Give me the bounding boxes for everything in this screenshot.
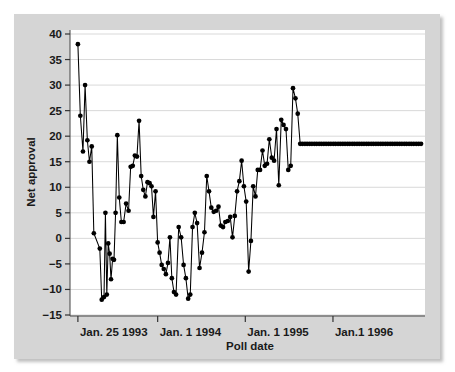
data-point [230,235,235,240]
data-point [81,149,86,154]
data-point [149,184,154,189]
data-point [202,230,207,235]
y-tick-label: 30 [49,79,62,91]
data-point [137,119,142,124]
data-point [181,263,186,268]
data-point [195,221,200,226]
data-point [76,42,81,47]
net-approval-line-chart: −15−10−50510152025303540 Jan. 25 1993Jan… [0,0,455,372]
data-point [274,127,279,132]
data-point [267,137,272,142]
y-axis-ticks: −15−10−50510152025303540 [42,28,70,321]
data-point [258,168,263,173]
data-point [176,225,181,230]
y-tick-label: −15 [42,309,62,321]
data-point [103,210,108,215]
y-tick-label: 40 [49,28,62,40]
x-tick-label: Jan. 25 1993 [80,326,148,338]
data-point [124,201,129,206]
data-point [91,231,96,236]
data-point [221,225,226,230]
data-point [85,138,90,143]
data-point [115,133,120,138]
data-point [197,266,202,271]
data-point [78,113,83,118]
data-point [157,250,162,255]
data-point [164,272,169,277]
data-point [155,240,160,245]
data-point [107,251,112,256]
data-point [200,250,205,255]
data-point [117,195,122,200]
x-axis-title: Poll date [226,340,274,352]
data-point [87,159,92,164]
data-point [251,184,256,189]
data-point [184,276,189,281]
data-point [112,257,117,262]
data-point [237,179,242,184]
y-axis-title: Net approval [25,137,37,207]
data-point [143,194,148,199]
data-point [253,194,258,199]
x-axis-ticks: Jan. 25 1993Jan. 1 1994Jan. 1 1995Jan.1 … [78,316,393,338]
y-tick-label: −5 [49,258,63,270]
data-point [179,235,184,240]
data-point [170,276,175,281]
data-point [190,225,195,230]
data-point [151,215,156,220]
y-tick-label: 25 [49,105,62,117]
data-point [204,174,209,179]
data-point [166,261,171,266]
data-point [244,199,249,204]
data-point [246,269,251,274]
x-tick-label: Jan. 1 1994 [160,326,222,338]
data-point [161,267,166,272]
data-point [232,214,237,219]
data-point [281,123,286,128]
data-point [153,189,158,194]
data-point [419,142,424,147]
data-point [126,208,131,213]
data-point [192,210,197,215]
data-point [214,208,219,213]
data-point [97,246,102,251]
data-point [104,292,109,297]
data-point [272,158,277,163]
data-point [139,174,144,179]
data-point [113,210,118,215]
data-point [83,83,88,88]
data-point [276,183,281,188]
data-point [265,161,270,166]
data-point [216,204,221,209]
data-point [228,215,233,220]
y-tick-label: 35 [49,54,62,66]
y-tick-label: 0 [56,232,62,244]
data-point [279,117,284,122]
chart-screenshot: −15−10−50510152025303540 Jan. 25 1993Jan… [0,0,455,372]
data-point [207,189,212,194]
data-point [174,292,179,297]
data-point [135,154,140,159]
data-point [293,96,298,101]
x-tick-label: Jan.1 1996 [335,326,393,338]
data-point [295,111,300,116]
data-point [168,235,173,240]
data-point [239,158,244,163]
data-point [225,219,230,224]
data-point [242,184,247,189]
data-point [249,239,254,244]
data-point [89,144,94,149]
data-point [159,263,164,268]
data-point [121,220,126,225]
data-point [109,277,114,282]
x-tick-label: Jan. 1 1995 [247,326,309,338]
data-point [260,148,265,153]
y-tick-label: 20 [49,130,62,142]
y-tick-label: 15 [49,156,62,168]
data-point [284,127,289,132]
data-point [106,241,111,246]
y-tick-label: 10 [49,181,62,193]
data-point [235,189,240,194]
data-point [141,187,146,192]
y-tick-label: 5 [56,207,63,219]
